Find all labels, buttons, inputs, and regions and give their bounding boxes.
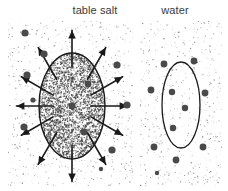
particle-outside-water-5 [200, 144, 207, 151]
particle-inside-table-salt-0 [69, 103, 76, 110]
particle-inside-table-salt-2 [81, 129, 88, 136]
particle-inside-water-2 [170, 125, 176, 131]
particle-outside-table-salt-1 [40, 50, 47, 57]
particle-outside-table-salt-8 [99, 167, 103, 171]
panel-label-table-salt: table salt [72, 4, 117, 16]
particle-inside-water-1 [182, 105, 188, 111]
figure-canvas: table saltwater [0, 0, 228, 191]
particle-outside-table-salt-7 [30, 97, 35, 102]
panel-label-water: water [160, 4, 189, 16]
particle-outside-table-salt-2 [23, 71, 30, 78]
particle-outside-table-salt-3 [20, 123, 27, 130]
particle-outside-water-4 [151, 144, 158, 151]
particle-outside-water-3 [202, 90, 209, 97]
particle-outside-water-6 [173, 157, 180, 164]
particle-inside-water-0 [169, 89, 175, 95]
particle-outside-table-salt-5 [123, 101, 130, 108]
particle-outside-table-salt-4 [113, 61, 120, 68]
diffusion-figure: table saltwater [0, 0, 228, 191]
particle-inside-table-salt-1 [85, 81, 92, 88]
particle-outside-water-2 [148, 87, 155, 94]
particle-outside-water-0 [161, 61, 168, 68]
particle-outside-table-salt-0 [21, 29, 28, 36]
particle-outside-table-salt-6 [108, 146, 115, 153]
particle-outside-water-7 [155, 171, 159, 175]
particle-outside-water-1 [191, 58, 198, 65]
